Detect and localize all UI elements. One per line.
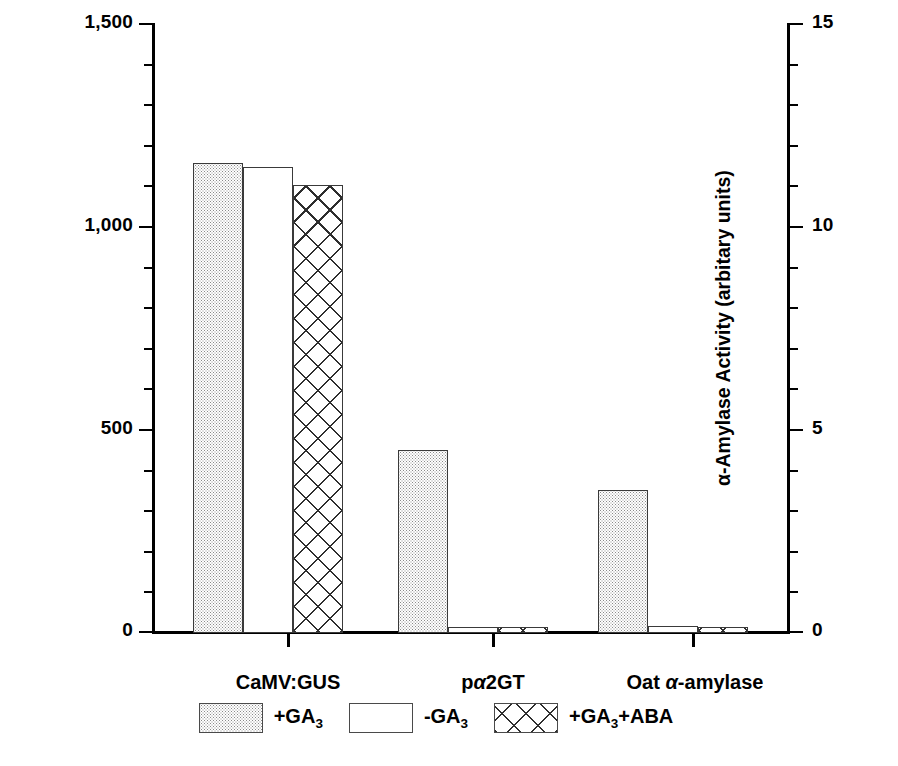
legend-label-ga-plus-aba-pre: +GA [569, 705, 611, 727]
legend-swatch-ga-plus-aba [494, 703, 558, 733]
y-tick-label-right-15: 15 [812, 11, 834, 33]
bar-oat-a-amylase-ga-minus [648, 626, 698, 633]
legend-item-ga-minus: -GA3 [349, 703, 494, 733]
y-tick-right-0 [790, 631, 803, 633]
y-tick-left-minor-300 [144, 510, 152, 512]
y-tick-left-minor-600 [144, 388, 152, 390]
bar-camv-gus-ga-plus-aba [293, 185, 343, 633]
y-tick-right-minor-7 [790, 348, 798, 350]
legend-label-ga-minus: -GA3 [424, 705, 468, 731]
y-tick-right-minor-12 [790, 145, 798, 147]
legend-item-ga-plus-aba: +GA3+ABA [494, 703, 699, 733]
y-tick-left-minor-400 [144, 470, 152, 472]
legend-label-ga-minus-sub: 3 [461, 716, 469, 731]
y-axis-right-line [787, 23, 790, 634]
y-tick-left-minor-700 [144, 348, 152, 350]
legend-swatch-ga-plus [199, 703, 263, 733]
figure-bar-chart: GUS activity (pmoles MU/min/104 protopla… [0, 0, 898, 766]
y-tick-right-10 [790, 226, 803, 228]
x-axis-label-pa2gt-post: 2GT [486, 671, 525, 693]
y-tick-left-1000 [139, 226, 152, 228]
legend-label-ga-plus-aba-post: +ABA [618, 705, 673, 727]
y-tick-right-minor-8 [790, 307, 798, 309]
x-axis-label-oat-a-amylase: Oat α-amylase [627, 671, 764, 694]
y-tick-label-left-1000: 1,000 [84, 214, 133, 236]
y-tick-left-minor-1400 [144, 64, 152, 66]
y-tick-right-minor-4 [790, 470, 798, 472]
y-tick-right-minor-14 [790, 64, 798, 66]
y-tick-left-1500 [139, 23, 152, 25]
x-axis-label-oat-a-amylase-pre: Oat [627, 671, 666, 693]
y-tick-right-minor-13 [790, 104, 798, 106]
x-tick-oat-a-amylase [692, 634, 695, 647]
y-tick-left-minor-900 [144, 267, 152, 269]
y-tick-label-right-5: 5 [812, 417, 823, 439]
y-tick-left-0 [139, 631, 152, 633]
y-tick-right-minor-2 [790, 551, 798, 553]
y-tick-label-left-1500: 1,500 [84, 11, 133, 33]
y-tick-left-minor-1100 [144, 185, 152, 187]
y-tick-label-left-0: 0 [122, 619, 133, 641]
y-axis-left-line [152, 23, 155, 634]
y-tick-left-500 [139, 429, 152, 431]
y-tick-label-right-10: 10 [812, 214, 834, 236]
x-tick-camv-gus [287, 634, 290, 647]
y-tick-left-minor-800 [144, 307, 152, 309]
x-tick-pa2gt [492, 634, 495, 647]
y-tick-left-minor-1300 [144, 104, 152, 106]
bar-camv-gus-ga-plus [193, 163, 243, 633]
y-tick-label-right-0: 0 [812, 619, 823, 641]
y-tick-label-left-500: 500 [101, 417, 133, 439]
x-axis-label-oat-a-amylase-italic: α [665, 671, 677, 693]
legend-swatch-ga-minus [349, 703, 413, 733]
y-tick-right-minor-1 [790, 591, 798, 593]
x-axis-label-oat-a-amylase-post: -amylase [678, 671, 764, 693]
plot-area: 1,500 1,000 500 0 15 10 5 0 [152, 23, 790, 633]
bar-oat-a-amylase-ga-plus-aba [698, 627, 748, 633]
legend: +GA3 -GA3 +GA3+ABA [0, 694, 898, 742]
bar-camv-gus-ga-minus [243, 167, 293, 633]
x-axis-label-camv-gus-pre: CaMV:GUS [236, 671, 340, 693]
y-tick-right-5 [790, 429, 803, 431]
legend-label-ga-plus-aba: +GA3+ABA [569, 705, 673, 731]
y-tick-right-minor-3 [790, 510, 798, 512]
bar-pa2gt-ga-plus-aba [498, 627, 548, 633]
legend-label-ga-plus-pre: +GA [274, 705, 316, 727]
bar-oat-a-amylase-ga-plus [598, 490, 648, 633]
x-axis-label-camv-gus: CaMV:GUS [236, 671, 340, 694]
x-axis-label-pa2gt: pα2GT [461, 671, 525, 694]
legend-label-ga-minus-pre: -GA [424, 705, 461, 727]
y-tick-right-minor-11 [790, 185, 798, 187]
y-tick-right-minor-9 [790, 267, 798, 269]
y-tick-left-minor-100 [144, 591, 152, 593]
x-axis-label-pa2gt-italic: α [473, 671, 485, 693]
legend-label-ga-plus-sub: 3 [315, 716, 323, 731]
legend-label-ga-plus: +GA3 [274, 705, 323, 731]
legend-item-ga-plus: +GA3 [199, 703, 349, 733]
x-axis-label-pa2gt-pre: p [461, 671, 473, 693]
y-tick-right-15 [790, 23, 803, 25]
bar-pa2gt-ga-minus [448, 627, 498, 633]
y-tick-left-minor-200 [144, 551, 152, 553]
bar-pa2gt-ga-plus [398, 450, 448, 633]
y-tick-left-minor-1200 [144, 145, 152, 147]
y-tick-right-minor-6 [790, 388, 798, 390]
